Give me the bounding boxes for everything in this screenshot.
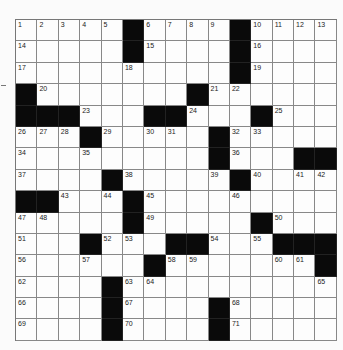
grid-cell[interactable] (230, 255, 251, 276)
grid-cell[interactable] (166, 213, 187, 234)
grid-cell[interactable] (166, 63, 187, 84)
grid-cell[interactable]: 61 (294, 255, 315, 276)
grid-cell[interactable] (187, 41, 208, 62)
grid-cell[interactable] (59, 277, 80, 298)
grid-cell[interactable] (166, 41, 187, 62)
grid-cell[interactable]: 47 (16, 213, 37, 234)
grid-cell[interactable] (80, 170, 101, 191)
grid-cell[interactable] (166, 191, 187, 212)
grid-cell[interactable]: 9 (209, 20, 230, 41)
grid-cell[interactable] (273, 191, 294, 212)
grid-cell[interactable] (166, 148, 187, 169)
grid-cell[interactable] (80, 277, 101, 298)
grid-cell[interactable] (59, 298, 80, 319)
grid-cell[interactable] (294, 127, 315, 148)
grid-cell[interactable] (187, 298, 208, 319)
grid-cell[interactable]: 7 (166, 20, 187, 41)
grid-cell[interactable] (59, 84, 80, 105)
grid-cell[interactable] (102, 148, 123, 169)
grid-cell[interactable] (37, 234, 58, 255)
grid-cell[interactable] (209, 41, 230, 62)
grid-cell[interactable] (273, 41, 294, 62)
grid-cell[interactable] (187, 170, 208, 191)
grid-cell[interactable] (251, 84, 272, 105)
grid-cell[interactable] (166, 298, 187, 319)
grid-cell[interactable]: 31 (166, 127, 187, 148)
grid-cell[interactable] (251, 298, 272, 319)
grid-cell[interactable] (315, 41, 336, 62)
grid-cell[interactable] (294, 84, 315, 105)
grid-cell[interactable] (80, 298, 101, 319)
grid-cell[interactable] (144, 148, 165, 169)
grid-cell[interactable] (315, 63, 336, 84)
grid-cell[interactable]: 21 (209, 84, 230, 105)
grid-cell[interactable] (37, 277, 58, 298)
grid-cell[interactable] (59, 63, 80, 84)
grid-cell[interactable]: 57 (80, 255, 101, 276)
grid-cell[interactable]: 4 (80, 20, 101, 41)
grid-cell[interactable]: 56 (16, 255, 37, 276)
grid-cell[interactable]: 10 (251, 20, 272, 41)
grid-cell[interactable]: 60 (273, 255, 294, 276)
grid-cell[interactable] (102, 63, 123, 84)
grid-cell[interactable] (315, 213, 336, 234)
grid-cell[interactable] (315, 191, 336, 212)
grid-cell[interactable] (37, 148, 58, 169)
grid-cell[interactable] (187, 63, 208, 84)
grid-cell[interactable] (230, 277, 251, 298)
grid-cell[interactable]: 43 (59, 191, 80, 212)
grid-cell[interactable]: 14 (16, 41, 37, 62)
grid-cell[interactable]: 22 (230, 84, 251, 105)
grid-cell[interactable] (273, 298, 294, 319)
grid-cell[interactable]: 1 (16, 20, 37, 41)
grid-cell[interactable]: 42 (315, 170, 336, 191)
grid-cell[interactable]: 20 (37, 84, 58, 105)
grid-cell[interactable]: 33 (251, 127, 272, 148)
grid-cell[interactable] (80, 191, 101, 212)
grid-cell[interactable]: 15 (144, 41, 165, 62)
grid-cell[interactable]: 50 (273, 213, 294, 234)
grid-cell[interactable]: 11 (273, 20, 294, 41)
grid-cell[interactable] (230, 213, 251, 234)
grid-cell[interactable] (273, 277, 294, 298)
grid-cell[interactable] (187, 277, 208, 298)
grid-cell[interactable]: 25 (273, 106, 294, 127)
grid-cell[interactable] (209, 277, 230, 298)
grid-cell[interactable]: 29 (102, 127, 123, 148)
grid-cell[interactable]: 48 (37, 213, 58, 234)
grid-cell[interactable] (123, 148, 144, 169)
grid-cell[interactable] (294, 41, 315, 62)
grid-cell[interactable]: 24 (187, 106, 208, 127)
grid-cell[interactable] (59, 213, 80, 234)
grid-cell[interactable] (80, 41, 101, 62)
grid-cell[interactable] (315, 319, 336, 340)
grid-cell[interactable] (273, 84, 294, 105)
grid-cell[interactable]: 28 (59, 127, 80, 148)
grid-cell[interactable]: 41 (294, 170, 315, 191)
grid-cell[interactable]: 70 (123, 319, 144, 340)
grid-cell[interactable]: 36 (230, 148, 251, 169)
grid-cell[interactable]: 38 (123, 170, 144, 191)
grid-cell[interactable]: 62 (16, 277, 37, 298)
grid-cell[interactable]: 64 (144, 277, 165, 298)
grid-cell[interactable]: 26 (16, 127, 37, 148)
grid-cell[interactable] (209, 213, 230, 234)
grid-cell[interactable] (59, 170, 80, 191)
grid-cell[interactable] (209, 63, 230, 84)
grid-cell[interactable] (102, 213, 123, 234)
grid-cell[interactable] (251, 191, 272, 212)
grid-cell[interactable]: 8 (187, 20, 208, 41)
grid-cell[interactable] (123, 84, 144, 105)
grid-cell[interactable] (37, 255, 58, 276)
grid-cell[interactable] (315, 106, 336, 127)
grid-cell[interactable] (59, 148, 80, 169)
grid-cell[interactable]: 44 (102, 191, 123, 212)
grid-cell[interactable]: 37 (16, 170, 37, 191)
grid-cell[interactable] (59, 255, 80, 276)
grid-cell[interactable] (294, 298, 315, 319)
grid-cell[interactable] (144, 63, 165, 84)
grid-cell[interactable]: 54 (209, 234, 230, 255)
grid-cell[interactable] (209, 255, 230, 276)
grid-cell[interactable] (80, 319, 101, 340)
grid-cell[interactable] (294, 191, 315, 212)
